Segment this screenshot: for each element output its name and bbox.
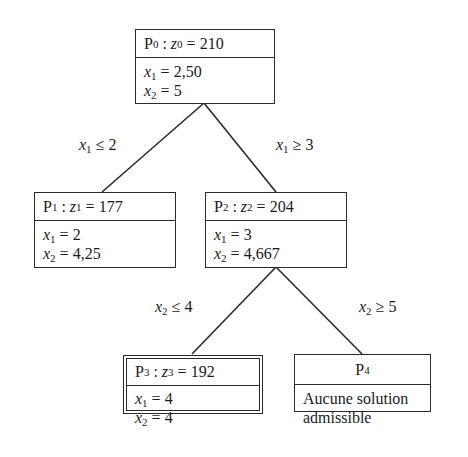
colon: : (153, 363, 157, 381)
equals: = (161, 63, 170, 80)
constraint-value: 5 (388, 298, 396, 315)
constraint-index: 1 (86, 143, 92, 155)
node-p1: P1 : z1 = 177 x1 = 2 x2 = 4,25 (34, 192, 176, 268)
equals: = (60, 226, 69, 243)
var-row: x1 = 2,50 (144, 62, 266, 81)
var-row: x2 = 4 (135, 408, 251, 427)
constraint-index: 1 (283, 143, 289, 155)
constraint-op: ≥ (376, 298, 385, 315)
node-label: P (214, 198, 223, 216)
equals: = (152, 390, 161, 407)
node-p2: P2 : z2 = 204 x1 = 3 x2 = 4,667 (205, 192, 347, 268)
edge-label-p0-p1: x1 ≤ 2 (79, 136, 116, 154)
constraint-op: ≤ (172, 298, 181, 315)
edge-label-p0-p2: x1 ≥ 3 (276, 136, 313, 154)
equals: = (86, 198, 95, 216)
colon: : (232, 198, 236, 216)
constraint-op: ≥ (293, 136, 302, 153)
equals: = (231, 245, 240, 262)
objective-value: 210 (200, 35, 224, 53)
var-row: x1 = 4 (135, 389, 251, 408)
infeasible-text: admissible (303, 408, 422, 427)
node-p1-values: x1 = 2 x2 = 4,25 (35, 221, 175, 263)
node-label: P (144, 35, 153, 53)
node-p0-values: x1 = 2,50 x2 = 5 (136, 58, 274, 100)
edge-label-p2-p3: x2 ≤ 4 (155, 298, 192, 316)
infeasible-text: Aucune solution (303, 389, 422, 408)
constraint-value: 3 (305, 136, 313, 153)
equals: = (60, 245, 69, 262)
constraint-value: 2 (108, 136, 116, 153)
node-p3-optimal: P3 : z3 = 192 x1 = 4 x2 = 4 (126, 358, 260, 411)
node-label: P (43, 198, 52, 216)
edge-p0-p1 (102, 103, 204, 192)
node-p0-header: P0 : z0 = 210 (136, 30, 274, 58)
var-value: 4 (165, 390, 173, 407)
var-index: 2 (142, 416, 148, 428)
edge-p0-p2 (204, 103, 276, 192)
var-value: 2 (73, 226, 81, 243)
edge-p2-p4 (276, 267, 362, 354)
var-index: 2 (151, 89, 157, 101)
objective-value: 192 (191, 363, 215, 381)
node-label: P (355, 361, 364, 379)
constraint-index: 2 (162, 305, 168, 317)
constraint-op: ≤ (96, 136, 105, 153)
equals: = (152, 409, 161, 426)
var-row: x2 = 4,25 (43, 244, 167, 263)
equals: = (257, 198, 266, 216)
var-value: 5 (174, 82, 182, 99)
constraint-value: 4 (184, 298, 192, 315)
edge-p2-p3 (192, 267, 276, 354)
equals: = (161, 82, 170, 99)
equals: = (178, 363, 187, 381)
node-p0: P0 : z0 = 210 x1 = 2,50 x2 = 5 (135, 29, 275, 104)
var-row: x2 = 4,667 (214, 244, 338, 263)
var-value: 4,25 (73, 245, 101, 262)
objective-value: 177 (99, 198, 123, 216)
node-p3-values: x1 = 4 x2 = 4 (127, 386, 259, 427)
var-row: x1 = 3 (214, 225, 338, 244)
var-value: 4 (165, 409, 173, 426)
var-row: x2 = 5 (144, 81, 266, 100)
objective-value: 204 (270, 198, 294, 216)
equals: = (187, 35, 196, 53)
node-p4-values: Aucune solution admissible (295, 385, 430, 427)
colon: : (162, 35, 166, 53)
node-p3-header: P3 : z3 = 192 (127, 359, 259, 386)
var-value: 4,667 (244, 245, 280, 262)
var-value: 3 (244, 226, 252, 243)
node-label: P (135, 363, 144, 381)
var-row: x1 = 2 (43, 225, 167, 244)
var-value: 2,50 (174, 63, 202, 80)
edge-label-p2-p4: x2 ≥ 5 (359, 298, 396, 316)
node-p2-header: P2 : z2 = 204 (206, 193, 346, 221)
node-p1-header: P1 : z1 = 177 (35, 193, 175, 221)
var-index: 2 (50, 252, 56, 264)
var-index: 2 (221, 252, 227, 264)
node-p2-values: x1 = 3 x2 = 4,667 (206, 221, 346, 263)
constraint-index: 2 (366, 305, 372, 317)
colon: : (61, 198, 65, 216)
node-p4-header: P4 (295, 355, 430, 385)
equals: = (231, 226, 240, 243)
node-p4-infeasible: P4 Aucune solution admissible (294, 354, 431, 412)
